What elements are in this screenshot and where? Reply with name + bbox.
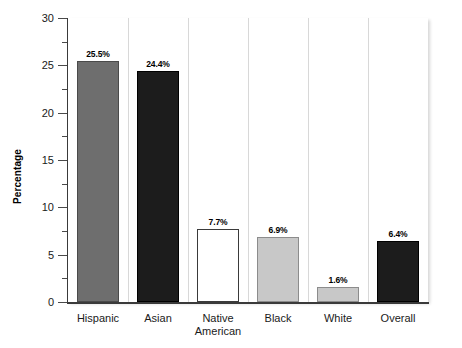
x-category-label: Native American xyxy=(188,312,248,338)
y-tick-major xyxy=(58,113,67,114)
bar-value-label: 7.7% xyxy=(209,217,228,227)
y-axis-title: Percentage xyxy=(12,190,23,204)
y-tick-major xyxy=(58,255,67,256)
y-tick-label: 20 xyxy=(26,107,54,118)
x-axis-line xyxy=(67,302,429,304)
bar-value-label: 25.5% xyxy=(86,49,110,59)
y-tick-label: 15 xyxy=(26,155,54,166)
y-tick-major xyxy=(58,207,67,208)
bar[interactable] xyxy=(77,61,119,302)
y-tick-major xyxy=(58,65,67,66)
bar-value-label: 24.4% xyxy=(146,59,170,69)
bar[interactable] xyxy=(137,71,179,302)
bar-chart: Percentage 051015202530 25.5%24.4%7.7%6.… xyxy=(0,0,462,348)
x-category-label: Black xyxy=(248,312,308,325)
y-tick-label: 0 xyxy=(26,297,54,308)
bar[interactable] xyxy=(257,237,299,302)
bar[interactable] xyxy=(197,229,239,302)
category-separator xyxy=(128,18,129,302)
y-axis-line xyxy=(67,18,68,304)
bar-value-label: 6.9% xyxy=(269,225,288,235)
x-category-label: Hispanic xyxy=(68,312,128,325)
category-separator xyxy=(368,18,369,302)
bar-value-label: 1.6% xyxy=(329,275,348,285)
category-separator xyxy=(188,18,189,302)
bar[interactable] xyxy=(317,287,359,302)
y-tick-label: 30 xyxy=(26,13,54,24)
category-separator xyxy=(248,18,249,302)
y-axis-tick-labels: 051015202530 xyxy=(26,0,54,348)
bar[interactable] xyxy=(377,241,419,302)
x-category-label: Overall xyxy=(368,312,428,325)
y-tick-major xyxy=(58,302,67,303)
category-separator xyxy=(308,18,309,302)
y-axis-ticks xyxy=(58,0,67,348)
y-tick-label: 10 xyxy=(26,202,54,213)
x-category-label: Asian xyxy=(128,312,188,325)
y-tick-major xyxy=(58,160,67,161)
plot-area xyxy=(68,18,428,302)
y-tick-major xyxy=(58,18,67,19)
y-tick-label: 25 xyxy=(26,60,54,71)
x-category-label: White xyxy=(308,312,368,325)
bar-value-label: 6.4% xyxy=(389,229,408,239)
y-tick-label: 5 xyxy=(26,249,54,260)
